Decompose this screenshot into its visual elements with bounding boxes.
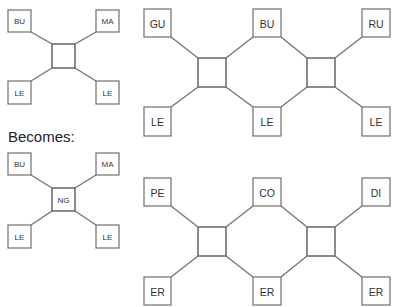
word-puzzle-diagram: BU MA LE LE GU BU RU LE LE LE BU MA LE L…: [0, 0, 399, 307]
after-small-top-left-label: BU: [14, 160, 25, 169]
before-large-center-right-box: [307, 58, 335, 87]
after-small-bottom-right-label: LE: [103, 233, 113, 242]
before-small-top-right-label: MA: [102, 17, 115, 26]
after-small-center-label: NG: [58, 196, 70, 205]
before-large-center-left-box: [198, 58, 226, 87]
after-large-bottom-left-label: ER: [150, 286, 165, 298]
after-large-bottom-middle-label: ER: [260, 286, 275, 298]
before-large-bottom-left-label: LE: [151, 116, 164, 128]
after-large-top-left-label: PE: [150, 187, 164, 199]
after-large-top-right-label: DI: [371, 187, 382, 199]
before-large-bottom-middle-label: LE: [261, 116, 274, 128]
after-large-top-middle-label: CO: [259, 187, 275, 199]
before-large-bottom-right-label: LE: [370, 116, 383, 128]
after-large-center-left-box: [198, 227, 226, 256]
before-large-top-right-label: RU: [368, 18, 383, 30]
after-small-bottom-left-label: LE: [15, 233, 25, 242]
before-small-bottom-left-label: LE: [15, 89, 25, 98]
before-small-center-box: [52, 44, 75, 68]
before-large-top-middle-label: BU: [260, 18, 275, 30]
after-large-center-right-box: [307, 227, 335, 256]
after-small-top-right-label: MA: [102, 160, 115, 169]
after-large-bottom-right-label: ER: [369, 286, 384, 298]
before-small-top-left-label: BU: [14, 17, 25, 26]
before-small-bottom-right-label: LE: [103, 89, 113, 98]
before-large-top-left-label: GU: [150, 18, 166, 30]
